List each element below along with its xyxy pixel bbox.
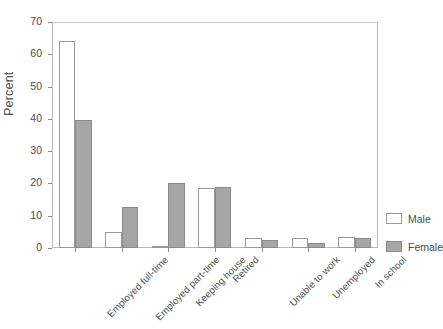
legend-label-female: Female <box>408 241 443 253</box>
legend: Male Female <box>386 210 443 266</box>
legend-item-male[interactable]: Male <box>386 210 443 227</box>
x-axis-label-4: Unable to work <box>287 254 341 308</box>
legend-item-female[interactable]: Female <box>386 238 443 255</box>
legend-swatch-male-icon <box>386 213 402 224</box>
legend-swatch-female-icon <box>386 241 402 252</box>
legend-label-male: Male <box>408 213 431 225</box>
